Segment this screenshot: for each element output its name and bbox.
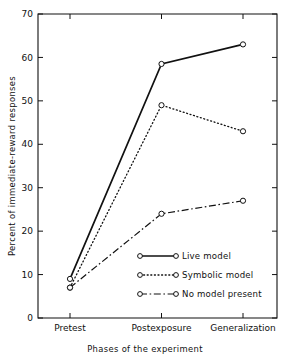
data-point-marker — [67, 276, 72, 281]
data-point-marker — [240, 198, 245, 203]
y-tick-label: 60 — [22, 53, 34, 63]
series-line — [70, 44, 243, 279]
x-tick-label: Pretest — [54, 323, 86, 333]
data-point-marker — [240, 42, 245, 47]
y-tick-label: 50 — [22, 96, 34, 106]
data-point-marker — [67, 285, 72, 290]
x-tick-label: Postexposure — [131, 323, 192, 333]
y-tick-label: 30 — [22, 183, 34, 193]
legend-label-1: Symbolic model — [182, 270, 253, 280]
y-tick-label: 10 — [22, 270, 34, 280]
legend-marker — [174, 254, 179, 259]
data-point-marker — [159, 103, 164, 108]
legend-marker — [138, 273, 143, 278]
legend-label-0: Live model — [182, 251, 231, 261]
data-point-marker — [159, 61, 164, 66]
legend-marker — [138, 292, 143, 297]
y-tick-label: 70 — [22, 9, 34, 19]
chart-legend: Live modelSymbolic modelNo model present — [138, 251, 263, 299]
legend-marker — [138, 254, 143, 259]
y-axis-title: Percent of immediate-reward responses — [7, 76, 17, 256]
series-symbolic-model — [67, 103, 245, 291]
legend-marker — [174, 292, 179, 297]
y-tick-label: 20 — [22, 226, 34, 236]
legend-label-2: No model present — [182, 289, 262, 299]
legend-marker — [174, 273, 179, 278]
y-tick-label: 40 — [22, 139, 34, 149]
series-live-model — [67, 42, 245, 282]
line-chart: 010203040506070 PretestPostexposureGener… — [0, 0, 290, 358]
data-point-marker — [159, 211, 164, 216]
data-point-marker — [240, 129, 245, 134]
chart-figure: 010203040506070 PretestPostexposureGener… — [0, 0, 290, 358]
y-tick-label: 0 — [27, 313, 33, 323]
x-tick-label: Generalization — [210, 323, 275, 333]
x-axis-title: Phases of the experiment — [87, 344, 203, 354]
x-axis-ticks: PretestPostexposureGeneralization — [54, 14, 276, 333]
